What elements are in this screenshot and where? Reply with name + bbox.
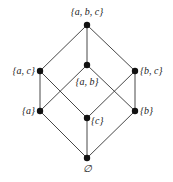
label-abc: {a, b, c} <box>71 6 103 17</box>
node-bc <box>132 68 138 74</box>
hasse-diagram: {a, b, c}{a, c}{a, b}{b, c}{a}{c}{b}∅ <box>0 0 173 182</box>
node-a <box>37 108 43 114</box>
edge-abc-ac <box>40 25 87 71</box>
edge-abc-bc <box>87 25 135 71</box>
label-ab: {a, b} <box>76 76 99 87</box>
edge-ab-a <box>40 65 87 111</box>
edge-ab-b <box>87 65 135 111</box>
nodes-layer <box>37 22 138 161</box>
node-ab <box>84 62 90 68</box>
labels-layer: {a, b, c}{a, c}{a, b}{b, c}{a}{c}{b}∅ <box>13 6 163 174</box>
node-ac <box>37 68 43 74</box>
label-empty: ∅ <box>83 163 93 174</box>
edge-a-empty <box>40 111 87 158</box>
edges-layer <box>40 25 135 158</box>
label-bc: {b, c} <box>140 65 162 76</box>
node-b <box>132 108 138 114</box>
label-a: {a} <box>22 105 35 116</box>
label-b: {b} <box>140 105 153 116</box>
node-empty <box>84 155 90 161</box>
label-ac: {a, c} <box>13 65 35 76</box>
node-c <box>84 115 90 121</box>
node-abc <box>84 22 90 28</box>
label-c: {c} <box>91 115 103 126</box>
